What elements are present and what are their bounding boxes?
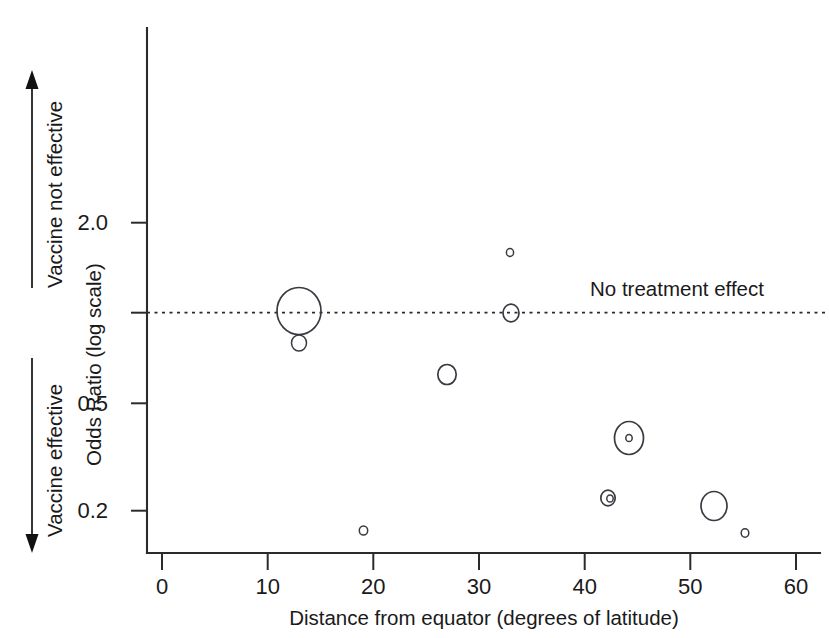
x-tick-label-60: 60: [784, 574, 808, 599]
data-point[interactable]: [607, 495, 613, 502]
data-point[interactable]: [292, 335, 307, 351]
vaccine-effective-label: Vaccine effective: [43, 384, 66, 537]
x-tick-label-10: 10: [255, 574, 279, 599]
y-tick-label-0-5: 0.5: [77, 391, 108, 416]
x-axis-title: Distance from equator (degrees of latitu…: [289, 606, 679, 629]
data-point[interactable]: [359, 526, 367, 535]
data-point[interactable]: [438, 365, 456, 385]
data-point[interactable]: [615, 422, 644, 455]
x-tick-label-0: 0: [156, 574, 168, 599]
vaccine-not-effective-arrow: [26, 70, 39, 288]
vaccine-effective-arrow: [26, 358, 39, 553]
x-tick-label-40: 40: [572, 574, 596, 599]
scatter-plot-svg: Vaccine not effective Vaccine effective …: [0, 0, 829, 638]
y-axis-title: Odds Ratio (log scale): [82, 263, 105, 466]
data-point[interactable]: [506, 249, 513, 257]
no-treatment-effect-label: No treatment effect: [590, 277, 764, 300]
data-point[interactable]: [741, 529, 749, 537]
chart-figure: Vaccine not effective Vaccine effective …: [0, 0, 829, 638]
x-tick-label-20: 20: [361, 574, 385, 599]
vaccine-not-effective-label: Vaccine not effective: [43, 101, 66, 288]
y-tick-label-2-0: 2.0: [77, 210, 108, 235]
x-tick-label-30: 30: [467, 574, 491, 599]
data-point[interactable]: [701, 492, 727, 521]
x-tick-label-50: 50: [678, 574, 702, 599]
y-tick-label-0-2: 0.2: [77, 498, 108, 523]
data-point[interactable]: [626, 434, 632, 441]
data-point[interactable]: [277, 288, 321, 335]
